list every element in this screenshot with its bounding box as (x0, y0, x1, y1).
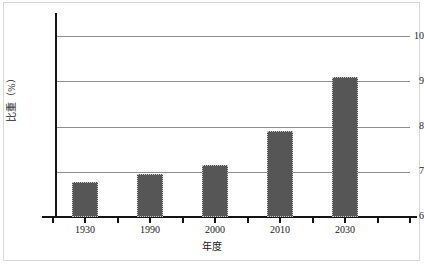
x-tick-label-2010: 2010 (250, 224, 310, 236)
x-tick-1930 (84, 218, 86, 223)
y-tick-label-6: 6 (378, 211, 424, 221)
y-tick-label-9: 9 (378, 76, 424, 86)
x-tick-label-2030: 2030 (315, 224, 375, 236)
bar-1930 (72, 182, 98, 217)
plot-area: 10 9 8 7 6 1930 1990 2000 2010 2030 比重（%… (0, 0, 424, 270)
x-tick-label-1930: 1930 (55, 224, 115, 236)
x-axis-title: 年度 (0, 241, 424, 252)
x-tick-label-1990: 1990 (120, 224, 180, 236)
x-tick-minor-6 (409, 218, 411, 223)
x-tick-1990 (149, 218, 151, 223)
y-tick-label-7: 7 (378, 166, 424, 176)
bar-2010 (267, 131, 293, 217)
x-tick-2030 (344, 218, 346, 223)
x-tick-minor-1 (117, 218, 119, 223)
gridline-10 (57, 36, 410, 37)
x-tick-minor-3 (247, 218, 249, 223)
x-tick-minor-5 (377, 218, 379, 223)
y-axis-line (55, 13, 57, 218)
x-tick-label-2000: 2000 (185, 224, 245, 236)
y-axis-title: 比重（%） (6, 63, 17, 133)
bar-1990 (137, 174, 163, 217)
bar-chart-figure: 10 9 8 7 6 1930 1990 2000 2010 2030 比重（%… (0, 0, 424, 270)
x-tick-minor-0 (52, 218, 54, 223)
x-tick-2000 (214, 218, 216, 223)
x-tick-minor-4 (312, 218, 314, 223)
bar-2000 (202, 165, 228, 218)
x-tick-2010 (279, 218, 281, 223)
x-axis-line (42, 216, 417, 218)
y-tick-label-8: 8 (378, 121, 424, 131)
bar-2030 (332, 77, 358, 217)
y-tick-label-10: 10 (378, 31, 424, 41)
x-tick-minor-2 (182, 218, 184, 223)
